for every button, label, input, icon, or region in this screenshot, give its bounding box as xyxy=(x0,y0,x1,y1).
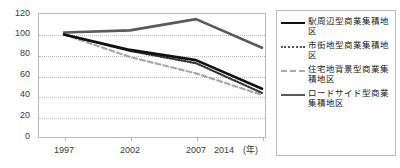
y-tick-label: 20 xyxy=(4,111,30,120)
x-axis-tick xyxy=(131,137,132,141)
series-line-residential xyxy=(64,35,262,96)
legend-item-label: ロードサイド型商業集積地区 xyxy=(308,88,392,108)
series-line-urban xyxy=(64,35,262,93)
x-axis-tick xyxy=(263,137,264,141)
legend-item-label: 市街地型商業集積地区 xyxy=(308,40,392,60)
plot-box xyxy=(38,13,266,138)
x-tick-label: 1997 xyxy=(44,146,84,155)
legend-item-station: 駅周辺型商業集積地区 xyxy=(281,16,392,36)
legend-item-residential: 住宅地背景型商業集積地区 xyxy=(281,64,392,84)
solid-gray-line-icon xyxy=(281,89,305,101)
legend-item-roadside: ロードサイド型商業集積地区 xyxy=(281,88,392,108)
solid-black-line-icon xyxy=(281,17,305,29)
x-tick-label: 2002 xyxy=(110,146,150,155)
chart-figure: 120 100 80 60 40 20 0 xyxy=(0,0,400,168)
x-axis-tick xyxy=(65,137,66,141)
dotted-line-icon xyxy=(281,41,305,53)
y-tick-label: 60 xyxy=(4,70,30,79)
dashed-line-icon xyxy=(281,65,305,77)
plot-area-wrapper: 120 100 80 60 40 20 0 xyxy=(0,0,272,168)
series-line-roadside xyxy=(64,19,262,48)
y-tick-label: 0 xyxy=(4,132,30,141)
y-tick-label: 80 xyxy=(4,49,30,58)
legend-item-urban: 市街地型商業集積地区 xyxy=(281,40,392,60)
y-tick-label: 100 xyxy=(4,29,30,38)
x-axis-unit-label: (年) xyxy=(243,146,258,155)
legend-item-label: 住宅地背景型商業集積地区 xyxy=(308,64,392,84)
chart-series-layer xyxy=(39,14,265,137)
chart-legend: 駅周辺型商業集積地区 市街地型商業集積地区 住宅地背景型商業集積地区 ロードサイ… xyxy=(276,10,396,156)
y-tick-label: 40 xyxy=(4,90,30,99)
x-tick-label: 2014 xyxy=(204,146,244,155)
y-tick-label: 120 xyxy=(4,9,30,18)
x-axis-tick xyxy=(197,137,198,141)
legend-item-label: 駅周辺型商業集積地区 xyxy=(308,16,392,36)
